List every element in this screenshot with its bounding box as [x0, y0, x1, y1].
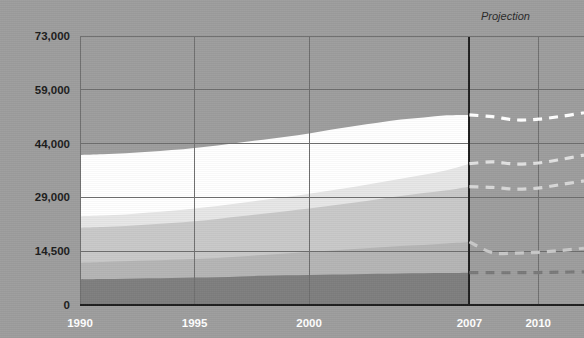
y-axis-tick-label: 59,000 — [35, 84, 70, 96]
y-axis-tick-label: 44,000 — [35, 138, 70, 150]
projection-lines — [469, 113, 584, 273]
projection-line-layer-3 — [469, 181, 584, 189]
y-axis-tick-label: 0 — [64, 299, 70, 311]
x-axis-tick-label: 2010 — [525, 317, 551, 329]
y-axis-tick-label: 14,500 — [35, 245, 70, 257]
x-axis-labels: 19901995200020072010 — [67, 317, 551, 329]
projection-line-layer-5 — [469, 113, 584, 120]
projection-line-layer-4 — [469, 155, 584, 164]
y-axis-tick-label: 73,000 — [35, 30, 70, 42]
chart-canvas: 014,50029,00044,00059,00073,000199019952… — [0, 0, 584, 338]
y-axis-tick-label: 29,000 — [35, 191, 70, 203]
y-axis-labels: 014,50029,00044,00059,00073,000 — [35, 30, 70, 311]
projection-line-layer-1 — [469, 272, 584, 273]
x-axis-tick-label: 1990 — [67, 317, 93, 329]
x-axis-tick-label: 2007 — [457, 317, 483, 329]
projection-line-layer-2 — [469, 242, 584, 254]
x-axis-tick-label: 2000 — [296, 317, 322, 329]
projection-label: Projection — [481, 10, 530, 22]
stacked-area-chart: 014,50029,00044,00059,00073,000199019952… — [0, 0, 584, 338]
x-axis-tick-label: 1995 — [182, 317, 208, 329]
